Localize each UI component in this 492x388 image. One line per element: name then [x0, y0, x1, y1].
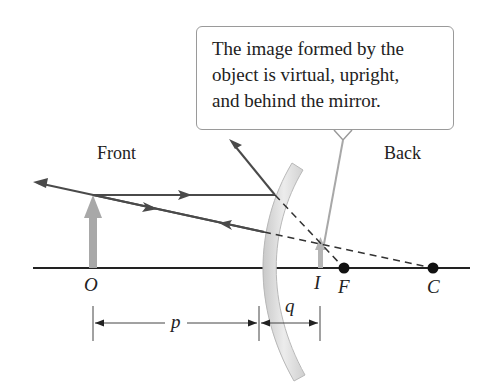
front-label: Front	[97, 143, 136, 164]
center-of-curvature	[428, 263, 439, 274]
image-distance-label: q	[285, 295, 295, 317]
ray-center-extension	[264, 232, 433, 268]
callout-leader-line	[324, 140, 343, 244]
ray-parallel-extension	[275, 195, 344, 268]
ray-parallel-reflected	[235, 146, 275, 195]
callout-pointer	[334, 130, 352, 140]
center-point-label: C	[427, 276, 440, 298]
object-arrow	[84, 195, 102, 268]
back-label: Back	[384, 143, 421, 164]
callout-line: object is virtual, upright,	[212, 62, 453, 88]
callout-line: and behind the mirror.	[212, 88, 453, 114]
object-distance-label: p	[171, 311, 181, 333]
image-point-label: I	[314, 272, 320, 294]
ray-center-reflected	[38, 183, 264, 232]
explanation-callout: The image formed by the object is virtua…	[196, 26, 454, 130]
callout-line: The image formed by the	[212, 36, 453, 62]
object-point-label: O	[84, 274, 98, 296]
focal-point-label: F	[338, 276, 350, 298]
focal-point	[339, 263, 350, 274]
